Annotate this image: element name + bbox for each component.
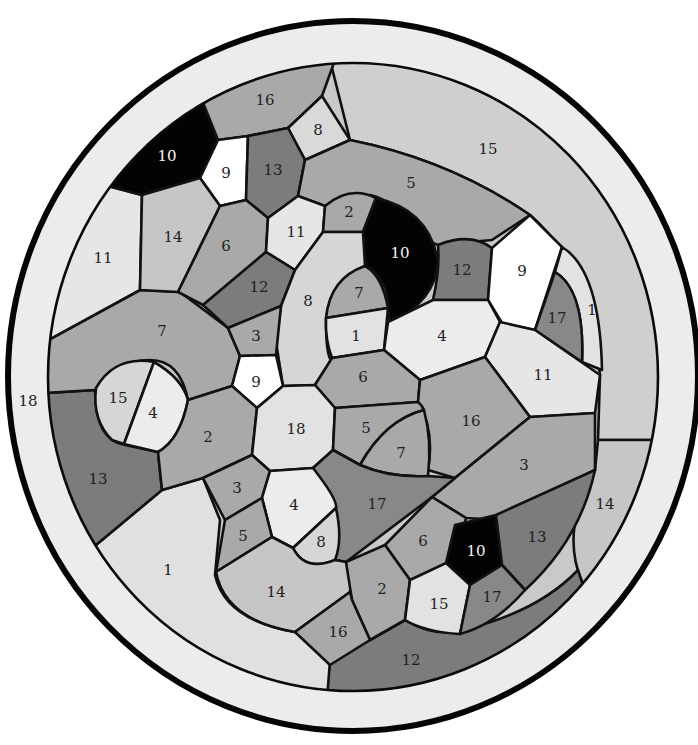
region-label: 10 <box>466 542 485 560</box>
region-label: 11 <box>533 366 552 384</box>
region-label: 17 <box>547 309 566 327</box>
region-label: 13 <box>263 161 282 179</box>
region-label: 8 <box>316 533 326 551</box>
region-label: 4 <box>289 496 299 514</box>
region-label: 16 <box>328 623 347 641</box>
region-label: 2 <box>203 428 213 446</box>
region-label: 4 <box>148 404 158 422</box>
region-label: 18 <box>18 392 37 410</box>
region-label: 6 <box>221 237 231 255</box>
mosaic-diagram: 1681091315511146112101291171287147311961… <box>0 0 698 745</box>
region-label: 16 <box>461 412 480 430</box>
region-label: 9 <box>251 373 261 391</box>
region-label: 14 <box>163 228 182 246</box>
region-label: 12 <box>452 261 471 279</box>
region-label: 5 <box>238 527 248 545</box>
region-label: 14 <box>595 495 614 513</box>
region-label: 2 <box>377 580 387 598</box>
region-label: 16 <box>255 91 274 109</box>
region-label: 4 <box>437 327 447 345</box>
region-label: 12 <box>249 278 268 296</box>
region-label: 9 <box>517 262 527 280</box>
region-label: 11 <box>93 249 112 267</box>
region-label: 8 <box>313 121 323 139</box>
region-label: 14 <box>266 583 285 601</box>
region-label: 15 <box>108 389 127 407</box>
region-label: 6 <box>418 532 428 550</box>
region-label: 3 <box>519 456 529 474</box>
region-label: 12 <box>401 651 420 669</box>
region-label: 1 <box>351 327 361 345</box>
region-label: 1 <box>587 301 597 319</box>
region-label: 13 <box>88 470 107 488</box>
region-label: 17 <box>482 588 501 606</box>
region-label: 5 <box>406 174 416 192</box>
region-label: 7 <box>157 322 167 340</box>
region-label: 13 <box>527 528 546 546</box>
region-label: 17 <box>367 495 386 513</box>
region-label: 11 <box>286 223 305 241</box>
region-label: 1 <box>163 561 173 579</box>
region-label: 3 <box>232 479 242 497</box>
region-label: 15 <box>478 140 497 158</box>
region-label: 10 <box>390 244 409 262</box>
region-label: 6 <box>358 368 368 386</box>
region-label: 8 <box>303 292 313 310</box>
region-label: 7 <box>396 444 406 462</box>
region-label: 3 <box>251 327 261 345</box>
region-label: 2 <box>344 203 354 221</box>
region-label: 5 <box>361 419 371 437</box>
region-label: 9 <box>221 164 231 182</box>
region-label: 7 <box>354 284 364 302</box>
region-label: 10 <box>157 147 176 165</box>
region-label: 15 <box>429 595 448 613</box>
region-label: 18 <box>286 420 305 438</box>
